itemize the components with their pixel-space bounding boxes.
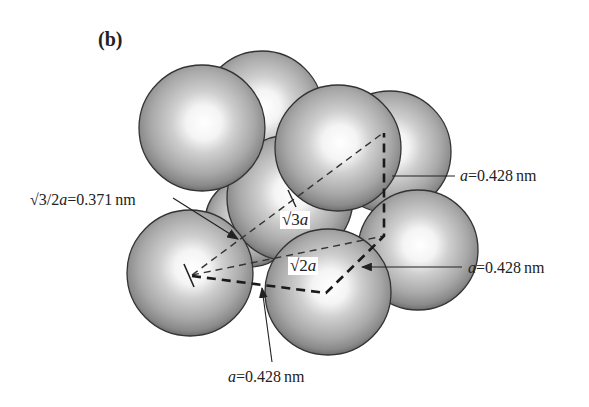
atom-front-bottom-left xyxy=(127,210,253,336)
label-value: =0.371 xyxy=(67,191,112,208)
label-var: a xyxy=(300,210,309,229)
label-var: a xyxy=(308,256,317,275)
label-unit: nm xyxy=(516,167,536,184)
label-var: a xyxy=(228,368,236,385)
label-edge-lower: a=0.428nm xyxy=(468,260,544,276)
label-var: a xyxy=(468,259,476,276)
label-unit: nm xyxy=(524,259,544,276)
label-value: =0.428 xyxy=(476,259,521,276)
label-face-diagonal: √2a xyxy=(288,257,318,275)
atom-front-top-right xyxy=(275,85,401,211)
label-body-diagonal: √3a xyxy=(280,211,310,229)
label-value: =0.428 xyxy=(468,167,513,184)
label-edge-bottom: a=0.428nm xyxy=(228,369,304,385)
label-unit: nm xyxy=(284,368,304,385)
label-value: =0.428 xyxy=(236,368,281,385)
label-half-body-diagonal: √3/2a=0.371nm xyxy=(30,192,136,208)
label-unit: nm xyxy=(115,191,135,208)
bcc-unit-cell-figure: (b) √3/2a=0.371nm a=0.428nm a=0.428nm a=… xyxy=(0,0,589,407)
label-var: a xyxy=(460,167,468,184)
panel-label: (b) xyxy=(98,28,122,51)
label-prefix: √3 xyxy=(282,210,300,229)
label-edge-upper: a=0.428nm xyxy=(460,168,536,184)
label-prefix: √3/2 xyxy=(30,191,59,208)
atom-front-top-left xyxy=(139,65,265,191)
label-prefix: √2 xyxy=(290,256,308,275)
